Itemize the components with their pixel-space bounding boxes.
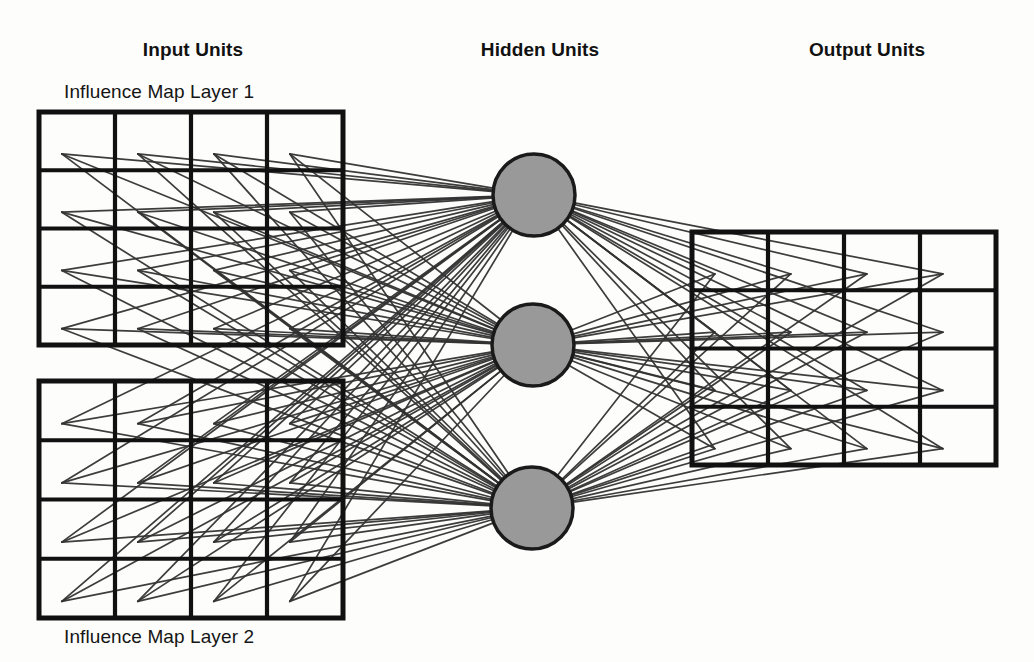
hidden-unit-3	[491, 467, 573, 549]
hidden-to-output-connections	[557, 203, 943, 503]
diagram-canvas: Input Units Hidden Units Output Units In…	[0, 0, 1034, 662]
hidden-unit-1	[493, 154, 575, 236]
hidden-unit-2	[492, 304, 574, 386]
network-graphic	[0, 0, 1034, 662]
hidden-unit-nodes	[491, 154, 575, 549]
output-grid-1	[692, 232, 996, 465]
input-to-hidden-connections	[62, 154, 514, 601]
